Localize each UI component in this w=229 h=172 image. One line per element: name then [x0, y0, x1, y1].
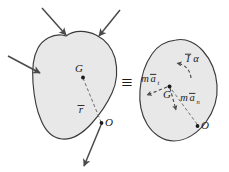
left-point-O-label: O [105, 116, 113, 128]
right-point-O-marker [196, 124, 200, 128]
figure-canvas: G O r ≡ G [0, 0, 229, 172]
m-a-n-subscript-n: n [196, 98, 199, 105]
applied-force-arrow-bottom [84, 125, 101, 166]
right-point-G-label: G [163, 88, 171, 100]
position-vector-r-letter: r [79, 103, 84, 115]
applied-force-arrow-top-right [99, 10, 120, 36]
left-point-G-label: G [75, 62, 83, 74]
left-point-G-marker [81, 76, 85, 80]
m-a-n-m-letter: m [180, 92, 188, 103]
left-body-group: G O r [8, 8, 120, 166]
right-point-O-label: O [201, 119, 209, 131]
right-body-group: G O I α m a t m a n [140, 40, 217, 141]
left-point-O-marker [100, 121, 104, 125]
applied-force-arrow-top-left [42, 8, 66, 35]
I-alpha-alpha-letter: α [193, 53, 199, 64]
mechanics-equivalence-figure: G O r ≡ G [0, 0, 229, 172]
m-a-t-subscript-t: t [158, 79, 160, 86]
m-a-t-m-letter: m [141, 73, 149, 84]
equivalence-symbol: ≡ [121, 71, 132, 93]
